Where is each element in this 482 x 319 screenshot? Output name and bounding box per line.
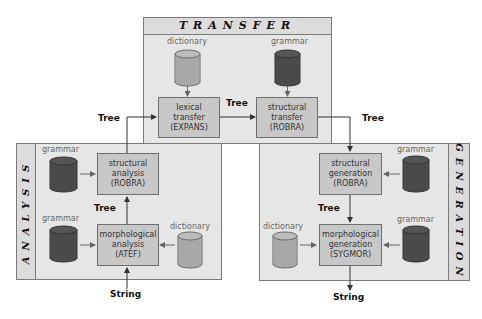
morphological-generation-box: morphological generation (SYGMOR) <box>319 224 382 266</box>
dictionary-database-icon <box>178 232 202 268</box>
morphological-analysis-box: morphological analysis (ATEF) <box>97 224 159 266</box>
analysis-dictionary-label: dictionary <box>170 222 210 231</box>
diagram-graphics <box>0 0 482 319</box>
analysis-to-transfer-tree-label: Tree <box>98 113 120 123</box>
structural-analysis-box: structural analysis (ROBRA) <box>97 153 159 195</box>
structural-transfer-box: structural transfer (ROBRA) <box>256 97 318 138</box>
analysis-tree-label: Tree <box>94 203 116 213</box>
output-string-label: String <box>333 292 364 302</box>
dictionary-database-icon <box>273 232 297 268</box>
analysis-grammar-top-label: grammar <box>42 145 79 154</box>
grammar-database-icon <box>50 157 77 192</box>
generation-grammar-top-label: grammar <box>397 145 434 154</box>
lexical-transfer-box: lexical transfer (EXPANS) <box>158 97 220 138</box>
input-string-label: String <box>110 289 141 299</box>
analysis-grammar-bottom-label: grammar <box>42 214 79 223</box>
mt-architecture-diagram: TRANSFER ANALYSIS GENERATION <box>0 0 482 319</box>
grammar-database-icon <box>275 50 300 86</box>
grammar-database-icon <box>403 226 429 262</box>
generation-tree-label: Tree <box>318 203 340 213</box>
transfer-to-generation-tree-label: Tree <box>362 113 384 123</box>
grammar-database-icon <box>50 226 77 262</box>
dictionary-database-icon <box>175 50 200 86</box>
structural-generation-box: structural generation (ROBRA) <box>319 153 382 195</box>
grammar-database-icon <box>403 156 429 192</box>
generation-dictionary-label: dictionary <box>263 222 303 231</box>
transfer-dictionary-label: dictionary <box>167 37 207 46</box>
transfer-grammar-label: grammar <box>271 37 308 46</box>
transfer-tree-label: Tree <box>226 98 248 108</box>
generation-grammar-bottom-label: grammar <box>397 215 434 224</box>
